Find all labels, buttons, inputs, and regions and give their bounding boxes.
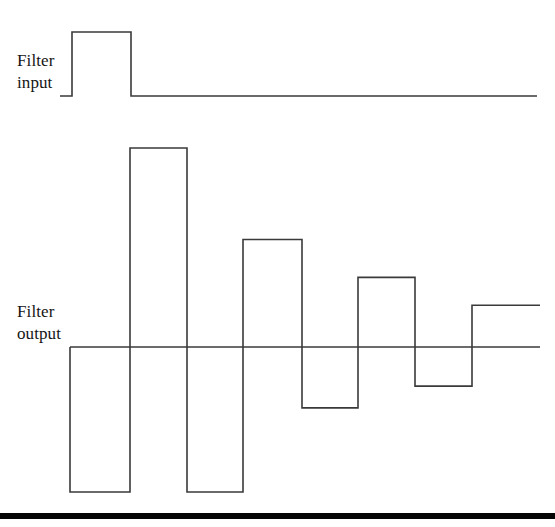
filter-input-waveform-path [60, 32, 537, 96]
filter-input-label-line2: input [17, 72, 54, 94]
filter-input-label: Filter input [17, 50, 54, 94]
waveform-plot-canvas [0, 0, 555, 527]
filter-output-label: Filter output [17, 301, 61, 345]
bottom-horizontal-rule [0, 513, 555, 519]
filter-output-trace [70, 148, 540, 492]
filter-input-trace [60, 32, 537, 96]
filter-input-label-line1: Filter [17, 50, 54, 72]
filter-output-waveform-path [70, 148, 540, 492]
filter-response-figure: Filter input Filter output [0, 0, 555, 527]
filter-output-label-line2: output [17, 323, 61, 345]
filter-output-label-line1: Filter [17, 301, 61, 323]
